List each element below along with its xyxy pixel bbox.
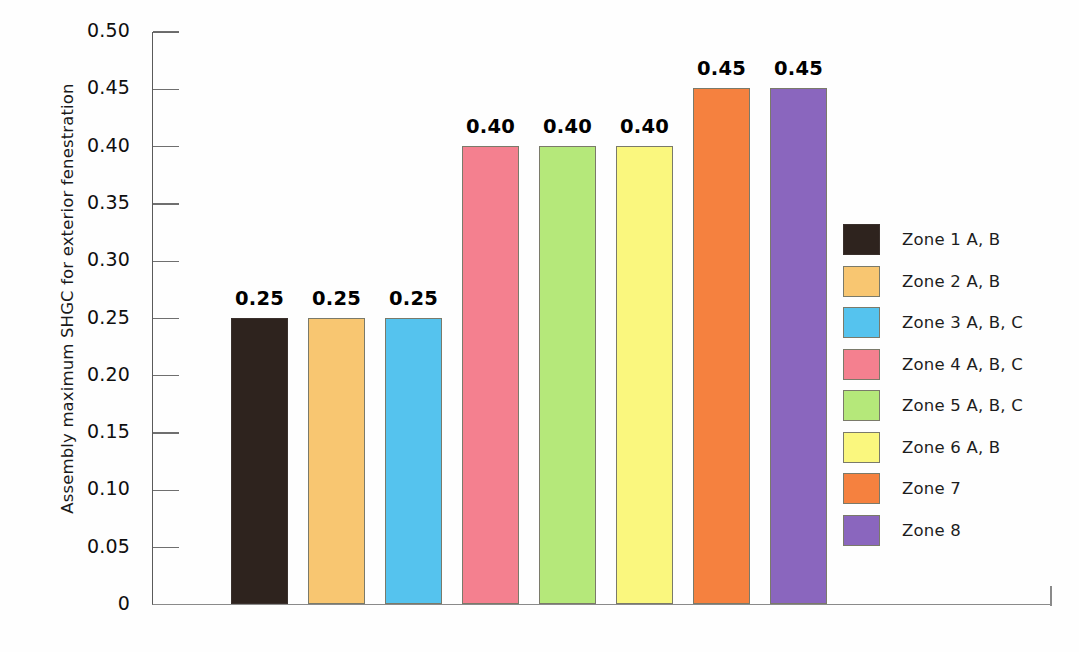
- bar-value-label-5: 0.40: [527, 115, 608, 138]
- bar-value-label-7: 0.45: [681, 57, 762, 80]
- legend-swatch-icon: [843, 515, 880, 546]
- y-axis-tick-label: 0: [0, 592, 140, 614]
- bar-7: [693, 88, 750, 604]
- legend-label: Zone 7: [902, 479, 961, 498]
- bar-value-label-1: 0.25: [219, 287, 300, 310]
- legend-item-8[interactable]: Zone 8: [843, 510, 1023, 552]
- legend-item-5[interactable]: Zone 5 A, B, C: [843, 385, 1023, 427]
- y-axis-tick: [153, 89, 179, 90]
- y-axis-tick: [153, 547, 179, 548]
- y-axis-tick: [153, 146, 179, 147]
- x-axis-end-tick: [1050, 586, 1052, 606]
- legend-label: Zone 2 A, B: [902, 272, 1000, 291]
- y-axis-tick-label: 0.50: [0, 19, 140, 41]
- legend-item-4[interactable]: Zone 4 A, B, C: [843, 344, 1023, 386]
- legend-label: Zone 1 A, B: [902, 230, 1000, 249]
- y-axis-tick-label: 0.10: [0, 477, 140, 499]
- legend-swatch-icon: [843, 473, 880, 504]
- legend-swatch-icon: [843, 307, 880, 338]
- legend-swatch-icon: [843, 432, 880, 463]
- y-axis-tick: [153, 432, 179, 433]
- y-axis-tick-label: 0.05: [0, 535, 140, 557]
- y-axis-tick-labels: 0.500.450.400.350.300.250.200.150.100.05…: [0, 0, 140, 652]
- legend-swatch-icon: [843, 266, 880, 297]
- bar-value-label-2: 0.25: [296, 287, 377, 310]
- bar-value-label-3: 0.25: [373, 287, 454, 310]
- y-axis-tick-label: 0.40: [0, 134, 140, 156]
- bar-8: [770, 88, 827, 604]
- legend-label: Zone 6 A, B: [902, 438, 1000, 457]
- bar-value-label-4: 0.40: [450, 115, 531, 138]
- bar-6: [616, 146, 673, 604]
- legend-item-7[interactable]: Zone 7: [843, 468, 1023, 510]
- legend-item-6[interactable]: Zone 6 A, B: [843, 427, 1023, 469]
- y-axis-tick-label: 0.45: [0, 76, 140, 98]
- bar-2: [308, 318, 365, 605]
- bar-3: [385, 318, 442, 605]
- y-axis-tick-label: 0.15: [0, 420, 140, 442]
- y-axis-tick: [153, 375, 179, 376]
- legend-item-3[interactable]: Zone 3 A, B, C: [843, 302, 1023, 344]
- legend-label: Zone 5 A, B, C: [902, 396, 1023, 415]
- legend-swatch-icon: [843, 349, 880, 380]
- legend-swatch-icon: [843, 390, 880, 421]
- legend-label: Zone 8: [902, 521, 961, 540]
- legend-swatch-icon: [843, 224, 880, 255]
- y-axis-tick-label: 0.20: [0, 363, 140, 385]
- bar-value-label-8: 0.45: [758, 57, 839, 80]
- bar-chart: Assembly maximum SHGC for exterior fenes…: [0, 0, 1079, 652]
- y-axis-tick: [153, 261, 179, 262]
- y-axis-tick-label: 0.25: [0, 306, 140, 328]
- y-axis-tick-label: 0.30: [0, 248, 140, 270]
- bar-5: [539, 146, 596, 604]
- legend-item-1[interactable]: Zone 1 A, B: [843, 219, 1023, 261]
- y-axis-tick: [153, 203, 179, 204]
- bar-4: [462, 146, 519, 604]
- legend-label: Zone 4 A, B, C: [902, 355, 1023, 374]
- bar-1: [231, 318, 288, 605]
- y-axis-tick-label: 0.35: [0, 191, 140, 213]
- y-axis-top-cap: [153, 32, 179, 33]
- legend-label: Zone 3 A, B, C: [902, 313, 1023, 332]
- legend: Zone 1 A, BZone 2 A, BZone 3 A, B, CZone…: [843, 219, 1023, 551]
- bar-value-label-6: 0.40: [604, 115, 685, 138]
- legend-item-2[interactable]: Zone 2 A, B: [843, 261, 1023, 303]
- y-axis-tick: [153, 318, 179, 319]
- y-axis-tick: [153, 490, 179, 491]
